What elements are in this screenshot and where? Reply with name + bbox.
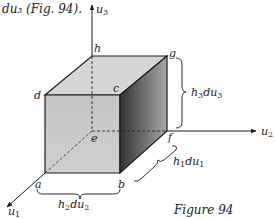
vertex-e-label: e — [91, 132, 98, 145]
brace-h3du3 — [176, 58, 186, 128]
vertex-b-label: b — [118, 178, 125, 191]
vertex-a-label: a — [35, 178, 42, 191]
h2du2-label: h2du2 — [58, 198, 89, 212]
h1du1-label: h1du1 — [173, 155, 204, 169]
u2-axis-label: u2 — [261, 125, 273, 139]
vertex-g-label: g — [169, 47, 176, 60]
front-face — [45, 95, 120, 173]
u3-axis-label: u3 — [96, 3, 108, 17]
curvilinear-volume-element-diagram: du₃ (Fig. 94). u3 u2 u1 a b c d e f g h … — [0, 0, 275, 219]
vertex-f-label: f — [167, 131, 174, 144]
vertex-d-label: d — [34, 89, 41, 102]
u1-axis-label: u1 — [8, 205, 20, 219]
vertex-c-label: c — [113, 82, 119, 95]
vertex-h-label: h — [94, 42, 101, 55]
caption-fragment: du₃ (Fig. 94). — [2, 2, 82, 16]
figure-label: Figure 94 — [173, 203, 234, 217]
h3du3-label: h3du3 — [191, 86, 222, 100]
